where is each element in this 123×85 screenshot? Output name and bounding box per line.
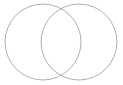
venn-diagram-figure	[0, 0, 123, 85]
venn-diagram-canvas	[0, 0, 123, 85]
